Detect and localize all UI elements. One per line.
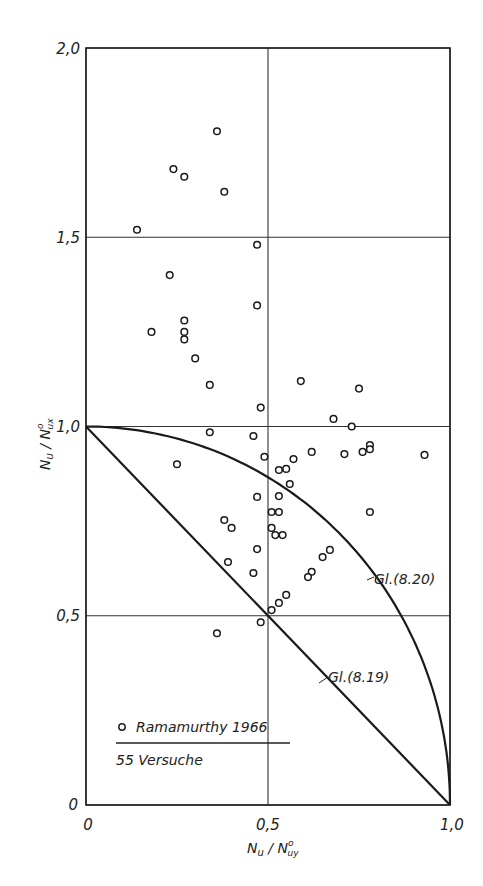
data-point bbox=[283, 592, 290, 599]
y-tick-0-5: 0,5 bbox=[56, 607, 80, 625]
data-point bbox=[257, 619, 264, 626]
data-point bbox=[181, 317, 188, 324]
data-point bbox=[283, 466, 290, 473]
data-point bbox=[214, 630, 221, 637]
data-point bbox=[276, 493, 283, 500]
data-point bbox=[268, 509, 275, 516]
grid-lines bbox=[86, 48, 450, 805]
data-point bbox=[319, 554, 326, 561]
y-tick-1: 1,0 bbox=[56, 418, 80, 436]
data-point bbox=[181, 173, 188, 180]
y-axis-label: Nu / Noux bbox=[35, 418, 55, 470]
curve-820-leader bbox=[367, 577, 374, 580]
data-point bbox=[298, 378, 305, 385]
data-point bbox=[250, 570, 257, 577]
data-point bbox=[134, 226, 141, 233]
svg-text:Nu / Noux: Nu / Noux bbox=[35, 418, 55, 470]
data-point bbox=[261, 454, 268, 461]
data-point bbox=[305, 574, 312, 581]
data-point bbox=[181, 329, 188, 336]
data-point bbox=[308, 449, 315, 456]
data-point bbox=[254, 302, 261, 309]
data-point bbox=[348, 423, 355, 430]
data-point bbox=[207, 429, 214, 436]
data-point bbox=[225, 559, 232, 566]
scatter-chart: 2,0 1,5 1,0 0,5 0 0 0,5 1,0 Nu / Nouy Nu… bbox=[0, 0, 483, 886]
data-point bbox=[341, 451, 348, 458]
data-point bbox=[250, 433, 257, 440]
data-point bbox=[254, 242, 261, 249]
data-point bbox=[257, 404, 264, 411]
data-point bbox=[268, 525, 275, 532]
data-point bbox=[148, 329, 155, 336]
data-point bbox=[276, 509, 283, 516]
legend: Ramamurthy 1966 55 Versuche bbox=[116, 719, 290, 768]
data-point bbox=[279, 532, 286, 539]
legend-marker-icon bbox=[119, 724, 125, 730]
data-point bbox=[272, 532, 279, 539]
data-point bbox=[221, 517, 228, 524]
data-point bbox=[268, 607, 275, 614]
svg-text:Nu / Nouy: Nu / Nouy bbox=[247, 838, 299, 858]
data-point bbox=[166, 272, 173, 279]
x-tick-0-5: 0,5 bbox=[256, 816, 280, 834]
data-point bbox=[327, 547, 334, 554]
legend-label: Ramamurthy 1966 bbox=[136, 719, 268, 735]
data-point bbox=[276, 600, 283, 607]
data-point bbox=[221, 189, 228, 196]
curve-label-8-19: Gl.(8.19) bbox=[328, 669, 389, 685]
data-point bbox=[287, 481, 294, 488]
data-point bbox=[228, 525, 235, 532]
data-point bbox=[254, 494, 261, 501]
data-point bbox=[367, 446, 374, 453]
x-tick-1: 1,0 bbox=[440, 816, 464, 834]
data-point bbox=[421, 452, 428, 459]
data-points bbox=[134, 128, 428, 637]
x-tick-0: 0 bbox=[83, 816, 93, 834]
data-point bbox=[214, 128, 221, 135]
data-point bbox=[170, 166, 177, 173]
data-point bbox=[359, 449, 366, 456]
y-tick-1-5: 1,5 bbox=[56, 229, 80, 247]
data-point bbox=[356, 385, 363, 392]
data-point bbox=[276, 467, 283, 474]
data-point bbox=[290, 456, 297, 463]
x-axis-label: Nu / Nouy bbox=[247, 838, 299, 858]
y-tick-2: 2,0 bbox=[56, 40, 80, 58]
data-point bbox=[254, 546, 261, 553]
curve-819-leader bbox=[319, 677, 328, 683]
data-point bbox=[367, 509, 374, 516]
legend-count: 55 Versuche bbox=[116, 752, 203, 768]
data-point bbox=[181, 336, 188, 343]
data-point bbox=[207, 382, 214, 389]
y-tick-0: 0 bbox=[68, 796, 78, 814]
data-point bbox=[192, 355, 199, 362]
curve-label-8-20: Gl.(8.20) bbox=[374, 571, 435, 587]
data-point bbox=[174, 461, 181, 468]
data-point bbox=[330, 416, 337, 423]
